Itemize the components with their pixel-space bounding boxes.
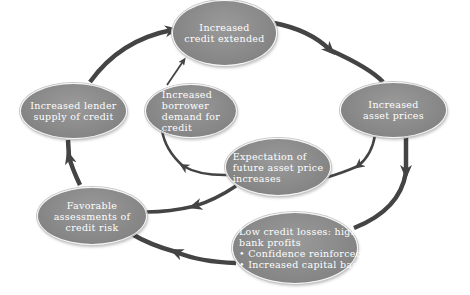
node-label: Increased lender supply of credit: [24, 100, 122, 122]
node-label: Favorable assessments of credit risk: [48, 200, 137, 233]
node-borrower-demand: Increased borrower demand for credit: [145, 84, 237, 138]
node-label: Low credit losses: high bank profits • C…: [233, 226, 369, 270]
arrow-expectation-to-favorable-tail: [146, 206, 195, 212]
arrow-credit-to-asset: [274, 23, 330, 50]
node-expectation: Expectation of future asset price increa…: [225, 138, 331, 196]
arrow-favorable-to-lender-tail: [68, 140, 69, 157]
node-favorable-assessments: Favorable assessments of credit risk: [37, 187, 147, 245]
arrow-lowloss-to-favorable-tail: [130, 233, 176, 252]
node-label: Expectation of future asset price increa…: [227, 151, 330, 184]
credit-cycle-diagram: Increased credit extended Increased asse…: [0, 0, 470, 295]
node-asset-prices: Increased asset prices: [340, 82, 447, 138]
node-lender-supply: Increased lender supply of credit: [20, 83, 127, 139]
arrow-expectation-to-borrower: [183, 166, 230, 175]
node-label: Increased asset prices: [357, 99, 430, 121]
arrow-lender-to-credit: [90, 30, 172, 82]
node-low-credit-losses: Low credit losses: high bank profits • C…: [232, 212, 358, 284]
arrow-lowloss-to-favorable: [176, 252, 236, 263]
arrow-credit-to-asset-tail: [330, 50, 383, 82]
node-label: Increased credit extended: [178, 22, 270, 44]
node-label: Increased borrower demand for credit: [156, 89, 226, 133]
arrow-asset-to-lowloss-b: [354, 172, 406, 228]
arrow-expectation-to-favorable: [195, 186, 236, 206]
arrow-asset-to-expectation: [358, 135, 375, 166]
node-credit-extended: Increased credit extended: [172, 0, 277, 66]
arrow-borrower-to-credit: [167, 60, 184, 85]
arrow-favorable-to-lender: [69, 157, 80, 185]
